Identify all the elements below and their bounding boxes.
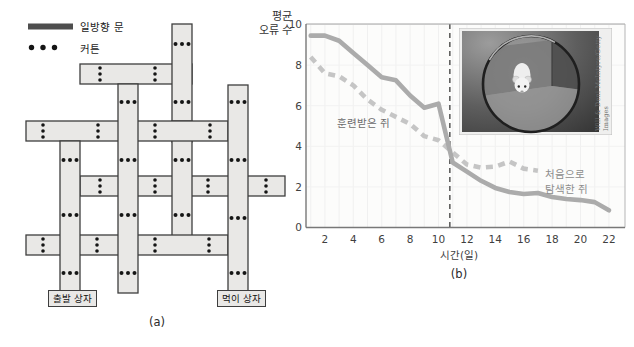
curtain-dot xyxy=(41,237,45,241)
curtain-dot xyxy=(96,129,100,133)
curtain-dot xyxy=(126,271,130,275)
curtain-dot xyxy=(133,100,137,104)
curtain-dot xyxy=(264,190,268,194)
x-tick-label: 2 xyxy=(322,233,329,245)
curtain-symbol-dot xyxy=(40,45,45,50)
curtain-dot xyxy=(95,249,99,253)
one-way-door-symbol xyxy=(28,24,73,30)
curtain-dot xyxy=(41,135,45,139)
x-tick-label: 22 xyxy=(602,233,615,245)
y-tick-label: 8 xyxy=(295,59,302,71)
curtain-dot xyxy=(153,123,157,127)
curtain-dot xyxy=(208,123,212,127)
curtain-dot xyxy=(133,271,137,275)
curtain-dot xyxy=(243,271,247,275)
rat-photo: Will & Deni McIntyre/Getty Images xyxy=(459,28,612,135)
curtain-dot xyxy=(236,216,240,220)
curtain-dot xyxy=(180,213,184,217)
curtain-dot xyxy=(230,271,234,275)
curtain-dot xyxy=(180,42,184,46)
x-axis-title: 시간(일) xyxy=(414,247,504,262)
x-tick-label: 12 xyxy=(460,233,473,245)
x-tick-label: 8 xyxy=(407,233,414,245)
x-tick-label: 18 xyxy=(545,233,558,245)
curtain-dot xyxy=(207,249,211,253)
photo-credit: Will & Deni McIntyre/Getty Images xyxy=(594,32,610,131)
curtain-dot xyxy=(120,271,124,275)
curtain-dot xyxy=(264,178,268,182)
curtain-dot xyxy=(236,271,240,275)
curtain-dot xyxy=(126,213,130,217)
x-tick-label: 14 xyxy=(489,233,503,245)
curtain-dot xyxy=(120,213,124,217)
curtain-dot xyxy=(68,271,72,275)
curtain-dot xyxy=(243,158,247,162)
curtain-dot xyxy=(206,178,210,182)
curtain-dot xyxy=(187,158,191,162)
curtain-dot xyxy=(68,213,72,217)
curtain-dot xyxy=(207,237,211,241)
curtain-dot xyxy=(174,42,178,46)
maze-corridor xyxy=(228,85,248,293)
curtain-dot xyxy=(95,237,99,241)
y-axis-title-line1: 평균 xyxy=(244,10,292,24)
rat-photo-illustration xyxy=(459,28,612,135)
curtain-dot xyxy=(187,213,191,217)
y-tick-label: 2 xyxy=(295,181,302,193)
x-tick-label: 20 xyxy=(574,233,587,245)
curtain-dot xyxy=(75,271,79,275)
curtain-dot xyxy=(230,158,234,162)
curtain-dot xyxy=(98,78,102,82)
curtain-dot xyxy=(180,158,184,162)
x-tick-label: 16 xyxy=(517,233,531,245)
curtain-dot xyxy=(120,100,124,104)
x-tick-label: 6 xyxy=(378,233,385,245)
x-tick-label: 4 xyxy=(350,233,357,245)
curtain-dot xyxy=(153,72,157,76)
legend-curtain-label: 커튼 xyxy=(80,41,100,56)
curtain-dot xyxy=(153,184,157,188)
curtain-dot xyxy=(62,213,66,217)
curtain-dot xyxy=(98,184,102,188)
y-axis-title-line2: 오류 수 xyxy=(244,24,292,38)
curtain-dot xyxy=(236,158,240,162)
novel-rat-label-line1: 처음으로 xyxy=(545,167,588,182)
curtain-dot xyxy=(153,237,157,241)
curtain-dot xyxy=(95,243,99,247)
curtain-dot xyxy=(230,216,234,220)
curtain-dot xyxy=(98,66,102,70)
curtain-dot xyxy=(206,190,210,194)
curtain-dot xyxy=(98,178,102,182)
novel-rat-label-line2: 탐색한 쥐 xyxy=(545,182,588,197)
trained-rat-label: 훈련받은 쥐 xyxy=(337,116,390,131)
curtain-dot xyxy=(126,100,130,104)
curtain-dot xyxy=(75,213,79,217)
curtain-dot xyxy=(174,213,178,217)
curtain-dot xyxy=(264,184,268,188)
curtain-dot xyxy=(133,158,137,162)
y-axis-title: 평균 오류 수 xyxy=(244,10,292,37)
curtain-dot xyxy=(208,135,212,139)
curtain-dot xyxy=(187,100,191,104)
curtain-dot xyxy=(153,243,157,247)
curtain-dot xyxy=(187,42,191,46)
curtain-dot xyxy=(75,158,79,162)
curtain-dot xyxy=(68,158,72,162)
curtain-dot xyxy=(153,190,157,194)
curtain-dot xyxy=(62,271,66,275)
curtain-dot xyxy=(41,249,45,253)
y-tick-label: 4 xyxy=(295,140,302,152)
curtain-symbol-dot xyxy=(52,45,57,50)
curtain-dot xyxy=(41,123,45,127)
start-box-label: 출발 상자 xyxy=(48,290,97,307)
rat xyxy=(513,63,532,93)
curtain-dot xyxy=(153,78,157,82)
curtain-dot xyxy=(174,100,178,104)
curtain-dot xyxy=(230,100,234,104)
curtain-dot xyxy=(96,123,100,127)
food-box-label: 먹이 상자 xyxy=(217,290,266,307)
curtain-dot xyxy=(62,158,66,162)
textbook-figure: 2468101214161820220246810 일방향 문 커튼 출발 상자… xyxy=(0,0,634,347)
curtain-dot xyxy=(153,178,157,182)
curtain-dot xyxy=(243,100,247,104)
